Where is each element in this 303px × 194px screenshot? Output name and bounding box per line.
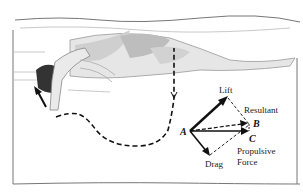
lift-label: Lift <box>219 86 233 95</box>
illustration-canvas <box>0 0 303 194</box>
resultant-label: Resultant <box>244 106 278 115</box>
propulsive-label-line1: Propulsive <box>237 147 276 156</box>
swimmer-body <box>36 30 295 110</box>
point-c-label: C <box>249 134 256 144</box>
point-b-label: B <box>253 119 260 129</box>
drag-label: Drag <box>205 160 223 169</box>
point-a-label: A <box>180 127 187 137</box>
propulsive-label-line2: Force <box>237 158 258 167</box>
